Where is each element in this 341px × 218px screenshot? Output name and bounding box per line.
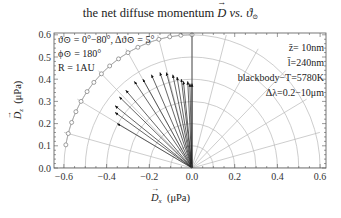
x-tick-label: −0.4 <box>98 171 116 182</box>
x-tick-label: 0.0 <box>186 171 199 182</box>
annotation-blackbody: blackbody−T=5780K <box>238 72 324 83</box>
annotation-phi: ϕ⊙ = 180° <box>58 48 101 59</box>
momentum-vectors <box>115 73 192 168</box>
chart-title: the net diffuse momentum D vs. ϑ⊙ <box>0 6 341 21</box>
x-tick-label: 0.2 <box>228 171 241 182</box>
x-tick-label: 0.4 <box>271 171 284 182</box>
annotation-l: l̄=240nm <box>288 57 324 68</box>
y-axis-label: Dz (μPa) <box>12 81 25 120</box>
x-axis-label: Dx (μPa) <box>0 192 341 205</box>
y-tick-label: 0.2 <box>39 118 52 129</box>
y-tick-label: 0.5 <box>39 52 52 63</box>
annotation-z: z̄= 10nm <box>289 42 324 53</box>
chart-plot: −0.6−0.4−0.20.00.20.40.60.00.10.20.30.40… <box>0 0 341 218</box>
y-tick-label: 0.6 <box>39 29 52 40</box>
annotation-theta-range: ϑ⊙ = 0°−80°, Δϑ⊙ = 5° <box>58 34 154 45</box>
y-tick-label: 0.4 <box>39 74 52 85</box>
x-tick-label: 0.6 <box>314 171 327 182</box>
y-tick-label: 0.1 <box>39 140 52 151</box>
x-tick-label: −0.6 <box>55 171 73 182</box>
y-tick-label: 0.3 <box>39 96 52 107</box>
x-tick-label: −0.2 <box>140 171 158 182</box>
y-tick-label: 0.0 <box>39 163 52 174</box>
annotation-wavelength: Δλ=0.2−10μm <box>266 87 324 98</box>
annotation-distance: R = 1AU <box>58 62 95 73</box>
